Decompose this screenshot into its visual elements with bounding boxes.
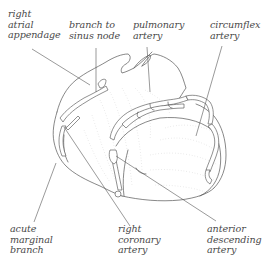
label-right-coronary-artery: right coronary artery [118,224,161,256]
leader-anterior-descending-artery [116,156,216,221]
coronary-vessels [59,79,219,197]
leader-acute-marginal-branch [34,163,56,222]
heart-outline [53,52,226,201]
label-anterior-descending-artery: anterior descending artery [207,224,262,256]
leader-pulmonary-artery [147,47,150,92]
leader-right-atrial-appendage [32,49,90,85]
label-right-atrial-appendage: right atrial appendage [8,9,61,41]
label-circumflex-artery: circumflex artery [210,20,260,41]
label-pulmonary-artery: pulmonary artery [133,20,184,41]
leader-right-coronary-artery [64,127,130,226]
heart-diagram: right atrial appendage branch to sinus n… [0,0,269,265]
label-acute-marginal-branch: acute marginal branch [10,224,53,256]
label-branch-to-sinus-node: branch to sinus node [69,20,120,41]
